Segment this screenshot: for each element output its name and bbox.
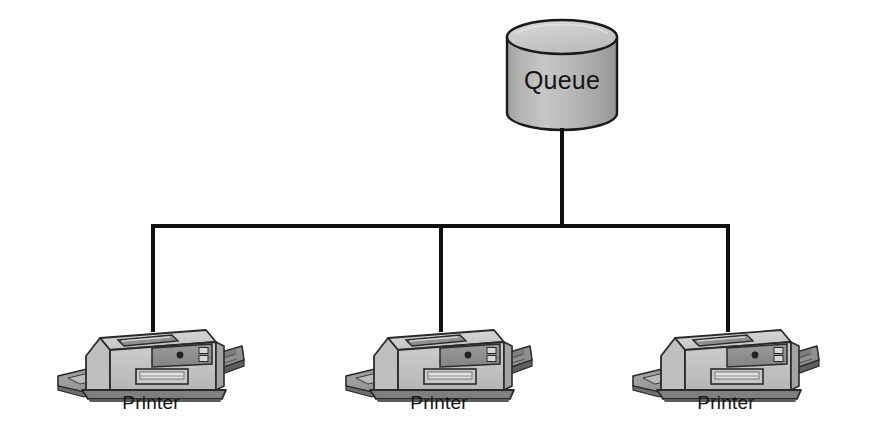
- queue-node[interactable]: Queue: [507, 20, 617, 130]
- topology-diagram: Queue Printer Printer Printer: [0, 0, 869, 438]
- diagram-canvas: Queue Printer Printer Printer: [0, 0, 869, 438]
- printer-label-2: Printer: [410, 392, 468, 413]
- printer-label-3: Printer: [697, 392, 755, 413]
- printer-node-2[interactable]: Printer: [346, 330, 532, 413]
- printer-label-1: Printer: [122, 392, 180, 413]
- queue-label: Queue: [524, 66, 600, 94]
- connector-lines: [151, 128, 730, 332]
- printer-node-3[interactable]: Printer: [633, 330, 819, 413]
- printer-node-1[interactable]: Printer: [58, 330, 244, 413]
